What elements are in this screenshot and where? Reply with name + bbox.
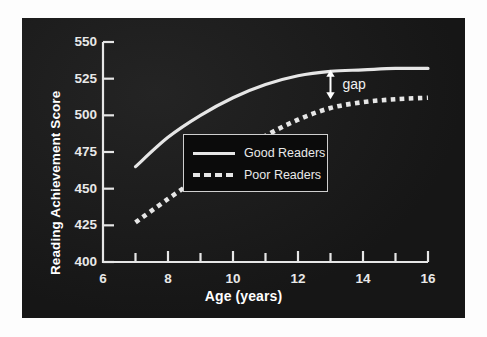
- chart-legend: Good Readers Poor Readers: [183, 134, 328, 192]
- legend-swatch-solid-icon: [193, 146, 235, 160]
- x-tick-label: 16: [420, 272, 435, 286]
- legend-label-good-readers: Good Readers: [244, 146, 325, 160]
- chart-panel: 400425450475500525550 6810121416 gap Goo…: [22, 18, 465, 318]
- y-tick-marks: [103, 42, 114, 262]
- legend-entry-poor-readers: Poor Readers: [184, 165, 327, 185]
- legend-label-poor-readers: Poor Readers: [244, 168, 321, 182]
- gap-arrow-icon: [326, 70, 334, 99]
- x-tick-label: 6: [99, 272, 107, 286]
- gap-annotation-label: gap: [343, 76, 366, 92]
- x-tick-label: 10: [225, 272, 240, 286]
- x-tick-label: 12: [290, 272, 305, 286]
- x-tick-marks: [136, 251, 429, 262]
- y-tick-label: 525: [55, 72, 97, 86]
- y-axis-title: Reading Achievement Score: [48, 91, 63, 275]
- legend-entry-good-readers: Good Readers: [184, 143, 327, 163]
- y-tick-label: 550: [55, 35, 97, 49]
- legend-swatch-dashed-icon: [193, 168, 235, 182]
- x-axis-title: Age (years): [205, 288, 282, 304]
- chart-screenshot: 400425450475500525550 6810121416 gap Goo…: [0, 0, 487, 337]
- plot-area: 400425450475500525550 6810121416 gap Goo…: [22, 18, 465, 318]
- x-tick-label: 8: [164, 272, 172, 286]
- x-tick-label: 14: [355, 272, 370, 286]
